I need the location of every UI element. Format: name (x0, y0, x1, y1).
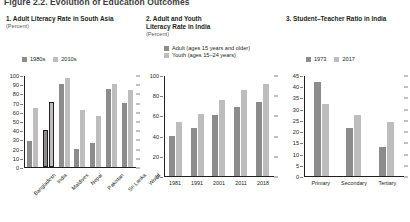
y-axis-tick: 40 (153, 134, 164, 140)
bar[interactable] (256, 102, 262, 176)
bar[interactable] (322, 104, 329, 176)
y-axis-tick-right (404, 177, 408, 178)
y-axis-tick-right (274, 177, 278, 178)
bar[interactable] (90, 143, 95, 167)
y-axis-tick-right (404, 109, 408, 110)
y-axis-tick: 60 (153, 113, 164, 119)
legend-item-youth[interactable]: Youth (ages 15–24 years) (164, 52, 250, 58)
legend-item-2010s[interactable]: 2010s (53, 56, 76, 62)
y-axis-tick: 40 (13, 128, 24, 134)
bar[interactable] (212, 115, 218, 176)
bar-group (27, 76, 38, 167)
bar[interactable] (263, 84, 269, 176)
y-axis-tick: 100 (150, 73, 164, 79)
bar[interactable] (379, 147, 386, 176)
panel-3-bars (305, 76, 403, 176)
legend-label: Adult (ages 15 years and older) (172, 45, 250, 51)
legend-item-adult[interactable]: Adult (ages 15 years and older) (164, 45, 250, 51)
bar-group (191, 76, 204, 176)
bar[interactable] (241, 90, 247, 176)
y-axis-tick-right (136, 112, 140, 113)
y-axis-tick-right (274, 96, 278, 97)
legend-label: Youth (ages 15–24 years) (172, 52, 236, 58)
y-axis-tick: 10 (13, 156, 24, 162)
panel-1-heading: 1. Adult Literacy Rate in South Asia (Pe… (6, 15, 113, 30)
y-axis-tick: 80 (153, 93, 164, 99)
y-axis-tick: 0 (156, 174, 164, 180)
bar[interactable] (314, 82, 321, 176)
bar[interactable] (169, 136, 175, 176)
legend-swatch-icon (164, 46, 169, 51)
y-axis-tick: 5 (296, 163, 304, 169)
panel-2-subtitle: (Percent) (146, 31, 210, 38)
x-axis-label: 2011 (235, 180, 247, 186)
bar[interactable] (176, 122, 182, 176)
y-axis-tick-right (136, 94, 140, 95)
y-axis-tick-right (404, 154, 408, 155)
bar[interactable] (122, 103, 127, 167)
bar[interactable] (49, 102, 54, 167)
bar[interactable] (191, 128, 197, 176)
bar[interactable] (112, 84, 117, 167)
bar-group (346, 76, 361, 176)
bar[interactable] (106, 89, 111, 167)
bar[interactable] (354, 115, 361, 176)
bar[interactable] (33, 108, 38, 167)
y-axis-tick-right (136, 158, 140, 159)
x-axis-tick-cell: 1981 (164, 180, 186, 186)
legend-item-2017[interactable]: 2017 (334, 56, 354, 62)
x-axis-tick-cell: 2011 (230, 180, 252, 186)
y-axis-tick: 100 (10, 73, 24, 79)
legend-swatch-icon (334, 57, 339, 62)
panel-3-x-labels: PrimarySecondaryTertiary (304, 180, 404, 186)
y-axis-tick-right (136, 122, 140, 123)
y-axis-tick-right (404, 132, 408, 133)
y-axis-tick: 70 (13, 101, 24, 107)
bar[interactable] (219, 100, 225, 176)
panel-3-plot-area: 051015202530354045 (304, 76, 404, 177)
x-axis-line (164, 176, 274, 177)
y-axis-tick-right (136, 85, 140, 86)
x-axis-tick-cell: Tertiary (371, 180, 404, 186)
panel-1-subtitle: (Percent) (6, 23, 113, 30)
bar[interactable] (27, 141, 32, 167)
bar[interactable] (234, 107, 240, 176)
bar-group (212, 76, 225, 176)
bar[interactable] (96, 116, 101, 167)
bar[interactable] (65, 78, 70, 167)
legend-label: 2017 (342, 56, 354, 62)
x-axis-label: 1991 (191, 180, 203, 186)
y-axis-tick-right (404, 165, 408, 166)
x-axis-tick-cell: 2001 (208, 180, 230, 186)
chart-panel-1: 1. Adult Literacy Rate in South Asia (Pe… (2, 0, 140, 222)
y-axis-line (24, 76, 25, 168)
legend-item-1980s[interactable]: 1980s (22, 56, 45, 62)
y-axis-line (164, 76, 165, 177)
legend-item-1973[interactable]: 1973 (306, 56, 326, 62)
panel-2-title-line1: 2. Adult and Youth (146, 15, 210, 23)
bar[interactable] (80, 110, 85, 167)
legend-swatch-icon (22, 57, 27, 62)
bar-group (122, 76, 133, 167)
panel-1-plot-area: 0102030405060708090100 (24, 76, 136, 168)
bar[interactable] (43, 130, 48, 167)
y-axis-tick: 15 (293, 140, 304, 146)
bar[interactable] (346, 128, 353, 176)
y-axis-tick-right (136, 168, 140, 169)
bar[interactable] (74, 149, 79, 167)
x-axis-line (24, 167, 136, 168)
y-axis-tick-right (404, 120, 408, 121)
bar-group (74, 76, 85, 167)
x-axis-tick-cell: Bangladesh (24, 172, 52, 178)
bar[interactable] (387, 122, 394, 176)
bar[interactable] (198, 114, 204, 176)
bar[interactable] (128, 90, 133, 167)
x-axis-label: 2018 (257, 180, 269, 186)
y-axis-tick: 20 (13, 147, 24, 153)
bar[interactable] (59, 84, 64, 167)
y-axis-tick: 20 (153, 154, 164, 160)
y-axis-tick: 90 (13, 82, 24, 88)
panel-2-bars (165, 76, 273, 176)
y-axis-tick-right (274, 76, 278, 77)
bar-group (90, 76, 101, 167)
